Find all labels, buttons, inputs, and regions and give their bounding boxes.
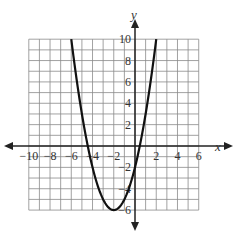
x-tick-label: 2: [153, 149, 159, 163]
x-axis-left-arrow-icon: [4, 142, 13, 150]
x-tick-label: 4: [174, 149, 180, 163]
x-axis-label: x: [214, 139, 221, 154]
x-axis-right-arrow-icon: [224, 142, 233, 150]
y-tick-label: −2: [118, 160, 131, 174]
y-tick-label: 8: [125, 54, 131, 68]
y-tick-label: 10: [119, 32, 131, 46]
x-tick-label: −8: [44, 149, 57, 163]
x-tick-label: −6: [65, 149, 78, 163]
y-axis-label: y: [129, 7, 137, 22]
grid: [29, 39, 199, 210]
coordinate-plane: x y −10−8−6−4−2246108642−2−4−6: [0, 0, 238, 238]
y-tick-label: 2: [125, 118, 131, 132]
y-tick-label: 6: [125, 75, 131, 89]
y-tick-label: 4: [125, 96, 131, 110]
y-axis-down-arrow-icon: [131, 222, 139, 231]
x-tick-label: 6: [196, 149, 202, 163]
x-tick-label: −10: [19, 149, 38, 163]
